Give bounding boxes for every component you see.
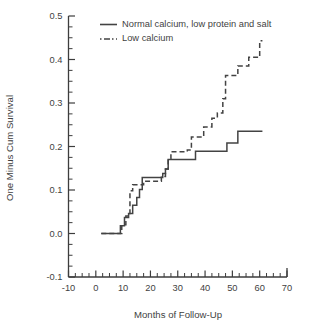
survival-curve-chart: -10010203040506070-0.10.00.10.20.30.40.5…: [0, 0, 311, 327]
x-tick-label: -10: [62, 283, 75, 293]
axis-tick-labels: -10010203040506070-0.10.00.10.20.30.40.5: [46, 11, 292, 293]
plot-axes: [69, 16, 288, 277]
x-tick-label: 50: [227, 283, 237, 293]
chart-figure: -10010203040506070-0.10.00.10.20.30.40.5…: [0, 0, 311, 327]
y-tick-label: 0.5: [50, 11, 63, 21]
x-tick-label: 40: [200, 283, 210, 293]
legend-label-low-calcium: Low calcium: [122, 33, 173, 43]
legend-label-normal-calcium: Normal calcium, low protein and salt: [122, 19, 272, 29]
y-tick-label: -0.1: [46, 272, 62, 282]
series-line-normal-calcium: [101, 131, 262, 233]
x-tick-label: 20: [145, 283, 155, 293]
y-tick-label: 0.3: [50, 98, 63, 108]
axis-ticks: [69, 16, 288, 277]
y-tick-label: 0.4: [50, 55, 63, 65]
y-tick-label: 0.2: [50, 142, 63, 152]
y-tick-label: 0.1: [50, 185, 63, 195]
data-series: [101, 41, 262, 234]
x-tick-label: 60: [255, 283, 265, 293]
x-tick-label: 70: [282, 283, 292, 293]
x-tick-label: 30: [173, 283, 183, 293]
y-axis-title: One Minus Cum Survival: [4, 95, 15, 201]
x-tick-label: 0: [93, 283, 98, 293]
chart-legend: Normal calcium, low protein and saltLow …: [100, 19, 272, 44]
y-tick-label: 0.0: [50, 229, 63, 239]
x-tick-label: 10: [118, 283, 128, 293]
x-axis-title: Months of Follow-Up: [134, 309, 222, 320]
